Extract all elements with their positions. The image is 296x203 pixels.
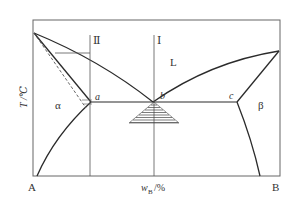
alloy-label-II: Ⅱ bbox=[93, 34, 100, 46]
alloy-label-I: Ⅰ bbox=[157, 34, 161, 46]
point-label-a: a bbox=[95, 91, 100, 102]
point-label-c: c bbox=[229, 90, 234, 101]
phase-diagram: Ⅱ Ⅰ L α β a b c T /℃ A B w B /% bbox=[0, 0, 296, 203]
phase-label-beta: β bbox=[258, 99, 264, 111]
right-component-label: B bbox=[272, 181, 279, 193]
point-label-b: b bbox=[160, 90, 165, 101]
x-axis-label-sub: B bbox=[148, 188, 153, 196]
x-axis-label-unit: /% bbox=[154, 182, 165, 193]
x-axis-label: w B /% bbox=[141, 182, 165, 196]
phase-label-alpha: α bbox=[55, 99, 61, 111]
solidus-left bbox=[34, 33, 91, 102]
solvus-left bbox=[37, 102, 91, 176]
left-component-label: A bbox=[28, 181, 36, 193]
x-axis-label-main: w bbox=[141, 182, 148, 193]
y-axis-label: T /℃ bbox=[18, 86, 29, 108]
phase-label-liquid: L bbox=[170, 56, 177, 68]
solvus-right bbox=[237, 102, 260, 176]
